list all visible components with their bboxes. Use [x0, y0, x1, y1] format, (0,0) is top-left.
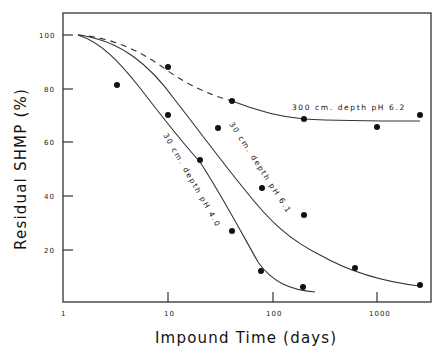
y-tick-80: 80	[44, 86, 55, 94]
plot-frame	[63, 13, 431, 302]
annotation-ph61: 30 cm. depth pH 6.1	[227, 120, 293, 215]
chart: 100 80 60 40 20 1 10 100 1000 Impound Ti…	[0, 0, 443, 353]
y-tick-60: 60	[44, 139, 55, 147]
curve-ph61	[78, 35, 420, 286]
curve-ph40	[78, 35, 315, 292]
y-tick-20: 20	[44, 247, 55, 255]
x-axis	[168, 292, 377, 302]
annotation-ph62: 300 cm. depth pH 6.2	[292, 103, 406, 112]
x-axis-label: Impound Time (days)	[155, 329, 337, 347]
points-ph61	[165, 64, 423, 288]
x-tick-10: 10	[164, 310, 175, 318]
x-tick-1000: 1000	[369, 310, 391, 318]
y-axis	[63, 35, 73, 250]
y-tick-40: 40	[44, 193, 55, 201]
y-tick-100: 100	[39, 32, 55, 40]
y-axis-label: Residual SHMP (%)	[12, 88, 30, 250]
x-tick-100: 100	[266, 310, 282, 318]
x-tick-1: 1	[61, 310, 66, 318]
curve-ph62-dashed	[78, 35, 232, 101]
annotation-ph40: 30 cm. depth pH 4.0	[161, 132, 223, 230]
